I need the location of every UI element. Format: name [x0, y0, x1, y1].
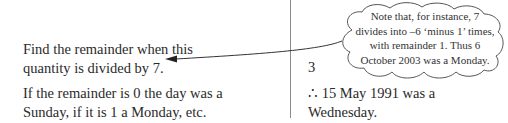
callout-line-3: with remainder 1. Thus 6 — [352, 38, 498, 53]
callout-line-1: Note that, for instance, 7 — [352, 9, 498, 24]
callout-line-4: October 2003 was a Monday. — [352, 53, 498, 68]
arrow-head-icon — [165, 56, 177, 63]
callout-line-2: divides into –6 ‘minus 1’ times, — [352, 24, 498, 39]
callout-arrow-line — [176, 41, 342, 59]
callout-note: Note that, for instance, 7 divides into … — [352, 9, 498, 67]
